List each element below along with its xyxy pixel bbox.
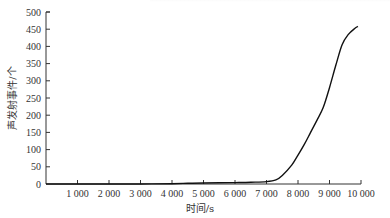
y-axis-title: 声发射事件/个 [6, 66, 18, 129]
series-line-acoustic-emission [46, 26, 358, 184]
y-axis: 050100150200250300350400450500 [26, 7, 50, 190]
y-tick-label: 150 [26, 127, 41, 138]
x-tick-label: 2 000 [98, 188, 121, 199]
y-tick-label: 250 [26, 93, 41, 104]
x-tick-label: 6 000 [224, 188, 247, 199]
y-tick-label: 300 [26, 75, 41, 86]
x-tick-label: 3 000 [129, 188, 152, 199]
x-tick-label: 5 000 [192, 188, 215, 199]
y-tick-label: 400 [26, 41, 41, 52]
y-tick-label: 450 [26, 24, 41, 35]
y-tick-label: 350 [26, 58, 41, 69]
x-tick-label: 9 000 [318, 188, 341, 199]
y-tick-label: 500 [26, 7, 41, 18]
x-axis-title: 时间/s [186, 202, 215, 214]
y-tick-label: 50 [31, 161, 41, 172]
x-tick-label: 1 000 [66, 188, 89, 199]
y-tick-label: 200 [26, 110, 41, 121]
x-tick-label: 7 000 [255, 188, 278, 199]
x-tick-label: 8 000 [287, 188, 310, 199]
y-tick-label: 100 [26, 144, 41, 155]
x-tick-label: 4 000 [161, 188, 184, 199]
x-tick-label: 10 000 [347, 188, 375, 199]
y-tick-label: 0 [36, 179, 41, 190]
